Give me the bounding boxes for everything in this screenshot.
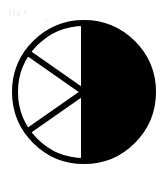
figure-canvas xyxy=(0,0,168,180)
sector-circle-svg xyxy=(0,0,168,180)
